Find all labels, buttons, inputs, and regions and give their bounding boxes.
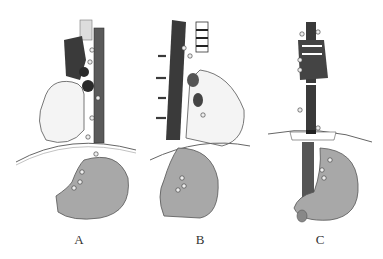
panel-label-c: C [310, 232, 330, 248]
panel-c-drawing [268, 22, 372, 222]
panel-label-a: A [69, 232, 89, 248]
panel-label-b: B [190, 232, 210, 248]
anatomical-illustration: A B C [0, 0, 383, 259]
panel-a-drawing [16, 20, 136, 219]
panel-b-drawing [150, 20, 250, 218]
